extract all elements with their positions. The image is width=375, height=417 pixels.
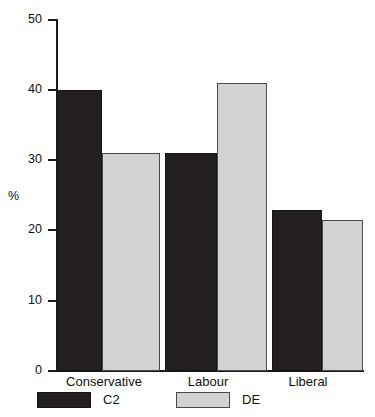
chart-legend: C2 DE [0, 392, 375, 414]
category-label-conservative: Conservative [52, 374, 156, 389]
y-tick-label-20: 20 [8, 223, 42, 235]
y-tick-30 [48, 159, 56, 161]
legend-item-c2: C2 [37, 392, 120, 408]
bar-liberal-de [322, 220, 363, 371]
legend-swatch-de-icon [176, 392, 230, 408]
category-label-labour: Labour [168, 374, 248, 389]
bar-labour-c2 [165, 153, 217, 371]
legend-swatch-c2-icon [37, 392, 91, 408]
bar-chart: 50 40 30 20 10 0 % Conservative Labour L… [0, 0, 375, 417]
bar-conservative-de [102, 153, 160, 371]
y-tick-label-40: 40 [8, 83, 42, 95]
y-tick-20 [48, 229, 56, 231]
bar-liberal-c2 [272, 210, 322, 371]
category-label-liberal: Liberal [272, 374, 344, 389]
legend-label-de: DE [242, 392, 260, 408]
bar-labour-de [217, 83, 267, 371]
legend-item-de: DE [176, 392, 260, 408]
bar-conservative-c2 [57, 90, 102, 371]
y-tick-label-50: 50 [8, 13, 42, 25]
legend-label-c2: C2 [103, 392, 120, 408]
y-tick-10 [48, 300, 56, 302]
y-tick-label-0: 0 [8, 364, 42, 376]
y-tick-40 [48, 89, 56, 91]
y-tick-label-30: 30 [8, 153, 42, 165]
y-tick-50 [48, 19, 56, 21]
y-axis-label: % [8, 189, 19, 203]
y-tick-label-10: 10 [8, 294, 42, 306]
y-tick-0 [48, 370, 56, 372]
plot-area [57, 20, 363, 371]
